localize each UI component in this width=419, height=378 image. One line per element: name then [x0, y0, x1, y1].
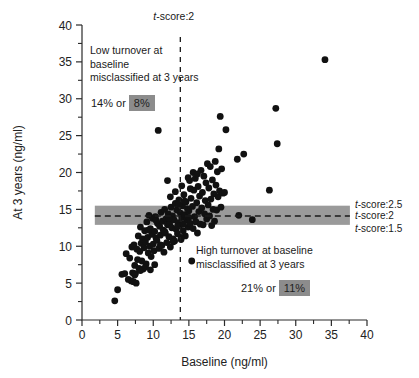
data-point: [212, 158, 219, 165]
data-point: [145, 227, 152, 234]
data-point: [218, 165, 225, 172]
high-turnover-annotation: High turnover at baseline misclassified …: [196, 244, 313, 271]
low-turnover-percent-plain: 14% or: [91, 97, 126, 109]
data-point: [215, 146, 222, 153]
data-point: [200, 173, 207, 180]
data-point: [198, 205, 205, 212]
data-point: [121, 270, 128, 277]
data-point: [218, 204, 225, 211]
t-score-2.5-label: t-score:2.5: [355, 199, 402, 210]
data-point: [172, 188, 179, 195]
data-point: [151, 261, 158, 268]
data-point: [151, 228, 158, 235]
data-point: [188, 258, 195, 265]
data-point: [111, 297, 118, 304]
low-turnover-percent-highlight: 8%: [129, 95, 155, 111]
data-point: [194, 171, 201, 178]
y-tick-label: 30: [59, 92, 73, 106]
y-tick-label: 25: [59, 129, 73, 143]
x-tick-label: 20: [218, 328, 232, 342]
data-point: [194, 230, 201, 237]
x-tick-label: 0: [79, 328, 86, 342]
x-tick-label: 5: [114, 328, 121, 342]
x-tick-label: 10: [147, 328, 161, 342]
y-tick-label: 15: [59, 203, 73, 217]
x-tick-label: 15: [182, 328, 196, 342]
scatter-plot-figure: 05101520253035400510152025303540 Baselin…: [0, 0, 419, 378]
data-point: [193, 199, 200, 206]
data-point: [170, 238, 177, 245]
data-point: [185, 214, 192, 221]
plot-canvas: 05101520253035400510152025303540 Baselin…: [0, 0, 419, 378]
data-point: [143, 219, 150, 226]
data-point: [234, 156, 241, 163]
data-point: [188, 195, 195, 202]
y-tick-label: 35: [59, 55, 73, 69]
low-turnover-annotation: Low turnover at baseline misclassified a…: [90, 44, 199, 85]
x-tick-label: 25: [253, 328, 267, 342]
data-point: [181, 198, 188, 205]
x-tick-label: 30: [289, 328, 303, 342]
t-score-2-label: t-score:2: [355, 210, 394, 221]
y-tick-label: 0: [65, 314, 72, 328]
data-point: [240, 151, 247, 158]
data-point: [195, 183, 202, 190]
data-point: [217, 113, 224, 120]
data-point: [164, 177, 171, 184]
data-point: [167, 193, 174, 200]
x-tick-label: 35: [325, 328, 339, 342]
high-turnover-percentages: 21% or11%: [241, 282, 310, 294]
data-point: [178, 182, 185, 189]
data-point: [211, 218, 218, 225]
data-point: [249, 216, 256, 223]
data-point: [178, 234, 185, 241]
data-point: [272, 105, 279, 112]
data-point: [213, 182, 220, 189]
data-point: [155, 127, 162, 134]
data-point: [199, 189, 206, 196]
data-point: [221, 189, 228, 196]
data-point: [207, 163, 214, 170]
data-point: [322, 56, 329, 63]
data-point: [200, 221, 207, 228]
y-tick-label: 20: [59, 166, 73, 180]
data-point: [114, 286, 121, 293]
data-point: [153, 217, 160, 224]
y-tick-label: 40: [59, 19, 73, 33]
x-tick-label: 40: [360, 328, 374, 342]
data-point: [205, 185, 212, 192]
data-point: [133, 280, 140, 287]
data-point: [187, 185, 194, 192]
data-point: [157, 241, 164, 248]
high-turnover-percent-highlight: 11%: [279, 280, 310, 296]
data-point: [161, 228, 168, 235]
data-point: [185, 174, 192, 181]
low-turnover-percentages: 14% or8%: [91, 97, 155, 109]
y-tick-label: 5: [65, 277, 72, 291]
x-axis-title: Baseline (ng/ml): [181, 355, 268, 369]
data-point: [148, 253, 155, 260]
high-turnover-percent-plain: 21% or: [241, 282, 276, 294]
data-point: [274, 140, 281, 147]
data-point: [180, 191, 187, 198]
t-score-2-vertical-label: t-score:2: [153, 10, 194, 22]
t-score-1.5-label: t-score:1.5: [355, 223, 402, 234]
data-point: [131, 272, 138, 279]
y-tick-label: 10: [59, 240, 73, 254]
data-point: [126, 255, 133, 262]
y-axis-title: At 3 years (ng/ml): [11, 125, 25, 220]
data-point: [161, 249, 168, 256]
data-point: [266, 187, 273, 194]
data-point: [223, 126, 230, 133]
